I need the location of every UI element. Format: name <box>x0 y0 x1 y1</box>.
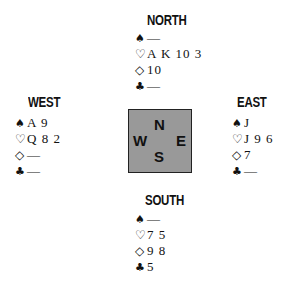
spade-icon: ♠ <box>135 213 147 227</box>
west-diamonds: ◇— <box>15 148 41 162</box>
compass-west: W <box>133 132 147 149</box>
south-hearts: ♡7 5 <box>135 228 166 242</box>
compass-east: E <box>176 132 186 149</box>
heart-icon: ♡ <box>135 228 147 242</box>
west-clubs: ♣— <box>15 164 41 179</box>
heart-icon: ♡ <box>135 47 147 61</box>
south-diamonds: ◇9 8 <box>135 244 166 258</box>
spade-icon: ♠ <box>15 117 27 131</box>
north-hearts: ♡A K 10 3 <box>135 47 202 61</box>
west-label: WEST <box>28 94 60 110</box>
club-icon: ♣ <box>232 165 244 179</box>
south-label: SOUTH <box>145 192 184 208</box>
spade-icon: ♠ <box>135 32 147 46</box>
compass-box: N W E S <box>128 109 192 173</box>
east-clubs: ♣— <box>232 164 258 179</box>
spade-icon: ♠ <box>232 117 244 131</box>
west-hearts: ♡Q 8 2 <box>15 132 61 146</box>
north-clubs: ♣— <box>135 79 161 94</box>
east-spades: ♠J <box>232 116 250 131</box>
north-spades: ♠— <box>135 31 161 46</box>
diamond-icon: ◇ <box>232 148 244 162</box>
compass-south: S <box>154 148 164 165</box>
south-clubs: ♣5 <box>135 260 155 275</box>
diamond-icon: ◇ <box>135 63 147 77</box>
club-icon: ♣ <box>135 261 147 275</box>
club-icon: ♣ <box>15 165 27 179</box>
heart-icon: ♡ <box>15 132 27 146</box>
north-diamonds: ◇10 <box>135 63 162 77</box>
east-diamonds: ◇7 <box>232 148 252 162</box>
west-spades: ♠A 9 <box>15 116 48 131</box>
diamond-icon: ◇ <box>15 148 27 162</box>
diamond-icon: ◇ <box>135 244 147 258</box>
compass-north: N <box>154 116 165 133</box>
east-label: EAST <box>237 94 267 110</box>
north-label: NORTH <box>147 12 187 28</box>
south-spades: ♠— <box>135 212 161 227</box>
club-icon: ♣ <box>135 80 147 94</box>
heart-icon: ♡ <box>232 132 244 146</box>
east-hearts: ♡J 9 6 <box>232 132 274 146</box>
